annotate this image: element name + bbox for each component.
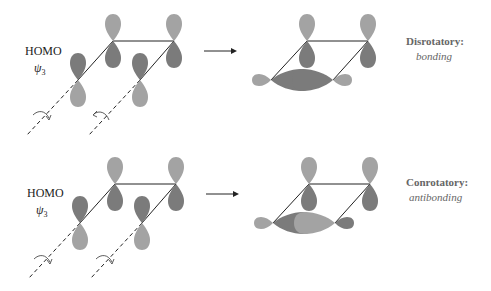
reaction-arrow-icon: [204, 48, 237, 54]
homo-label: HOMO: [27, 186, 64, 201]
psi-subscript: 3: [43, 210, 47, 219]
panel-disrotatory: [27, 14, 376, 135]
p-orbital-c1: [72, 196, 88, 250]
wavefunction-label: ψ3: [36, 203, 47, 219]
mode-title: Conrotatory:: [406, 176, 468, 188]
mode-result: antibonding: [409, 191, 462, 203]
p-orbital-c4: [132, 53, 148, 107]
p-orbital-c1: [70, 53, 86, 107]
reactant-skeleton: [80, 184, 176, 223]
sigma-bond-antibonding: [254, 212, 354, 234]
homo-label: HOMO: [25, 44, 62, 59]
panel-conrotatory: [29, 157, 378, 278]
electrocyclic-diagram: HOMO ψ3 Disrotatory: bonding HOMO ψ3 Con…: [0, 0, 491, 291]
mode-title: Disrotatory:: [406, 35, 464, 47]
psi-subscript: 3: [41, 68, 45, 77]
mode-result: bonding: [416, 50, 452, 62]
sigma-bond-bonding: [252, 69, 352, 91]
p-orbital-c4: [134, 196, 150, 250]
reactant-skeleton: [78, 41, 174, 80]
wavefunction-label: ψ3: [34, 61, 45, 77]
rotation-arrow-right-icon: [93, 111, 109, 120]
reaction-arrow-icon: [206, 191, 239, 197]
